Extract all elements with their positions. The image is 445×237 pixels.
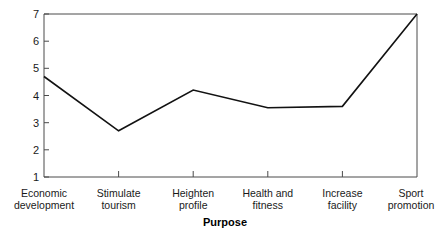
y-tick-label: 6	[33, 35, 39, 47]
category-label-line1: Increase	[322, 187, 362, 199]
category-label-line1: Health and	[242, 187, 293, 199]
category-label-line1: Economic	[21, 187, 67, 199]
category-label-line2: fitness	[253, 199, 283, 211]
category-label-line2: profile	[179, 199, 208, 211]
y-tick-label: 5	[33, 62, 39, 74]
y-tick-label: 2	[33, 144, 39, 156]
category-label-line2: tourism	[101, 199, 136, 211]
category-label-line2: promotion	[388, 199, 435, 211]
category-label-line2: development	[14, 199, 74, 211]
line-chart: 7 6 5 4 3 2 1 Economic development Stimu…	[0, 0, 445, 237]
y-tick-label: 4	[33, 90, 39, 102]
category-label-line1: Heighten	[172, 187, 214, 199]
y-tick-label: 1	[33, 171, 39, 183]
y-tick-label: 3	[33, 117, 39, 129]
category-label-line2: facility	[328, 199, 358, 211]
y-tick-label: 7	[33, 8, 39, 20]
x-axis-title: Purpose	[203, 216, 247, 228]
category-label-line1: Stimulate	[97, 187, 141, 199]
category-label-line1: Sport	[398, 187, 423, 199]
chart-canvas: 7 6 5 4 3 2 1 Economic development Stimu…	[0, 0, 445, 237]
